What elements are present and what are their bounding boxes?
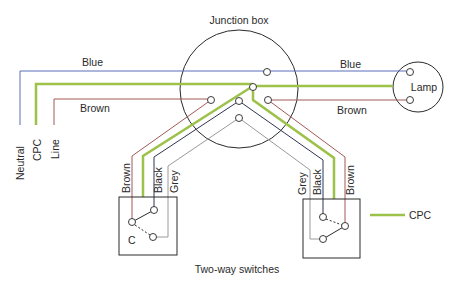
legend-cpc-label: CPC <box>409 209 432 221</box>
switch-left-terminal-l2 <box>150 234 157 241</box>
switch-left-label-brown: Brown <box>120 163 132 193</box>
switch-right-alt-contact <box>326 219 342 225</box>
switch-left-common-label: C <box>128 234 136 246</box>
switch-left-label-black: Black <box>152 167 164 193</box>
switch-left-terminal-common <box>129 219 136 226</box>
label-cpc-supply: CPC <box>31 138 43 161</box>
jb-terminal-black <box>236 98 243 105</box>
switch-right-terminal-l2 <box>320 236 327 243</box>
junction-box-title: Junction box <box>210 14 270 26</box>
switch-right-label-grey: Grey <box>296 171 308 195</box>
switch-right-box <box>303 199 360 258</box>
label-blue-left: Blue <box>82 56 103 68</box>
label-brown-left: Brown <box>80 102 110 114</box>
switch-left-alt-contact <box>135 225 150 235</box>
line-wire-supply <box>54 99 211 125</box>
jb-terminal-switch-line <box>265 97 272 104</box>
label-neutral: Neutral <box>14 146 26 180</box>
label-brown-right: Brown <box>337 104 367 116</box>
switch-right-label-brown: Brown <box>344 165 356 195</box>
jb-terminal-neutral <box>264 69 271 76</box>
switch-left-terminal-l1 <box>151 207 158 214</box>
jb-terminal-cpc <box>250 84 257 91</box>
switch-right-terminal-l1 <box>320 214 327 221</box>
cpc-wire-supply <box>36 84 253 125</box>
jb-terminal-grey <box>236 115 243 122</box>
neutral-wire-supply <box>20 71 267 125</box>
switches-caption: Two-way switches <box>195 263 280 275</box>
switch-right-terminal-common <box>342 223 349 230</box>
wiring-diagram: Junction box Lamp Blue Brown Blue Brown … <box>0 0 453 289</box>
switch-left-label-grey: Grey <box>168 169 180 193</box>
jb-terminal-line <box>208 97 215 104</box>
lamp-label: Lamp <box>411 81 437 93</box>
label-line: Line <box>49 139 61 159</box>
label-blue-right: Blue <box>340 58 361 70</box>
lamp-terminal-neutral <box>407 69 414 76</box>
lamp-terminal-line <box>407 97 414 104</box>
switch-right-label-black: Black <box>311 169 323 195</box>
